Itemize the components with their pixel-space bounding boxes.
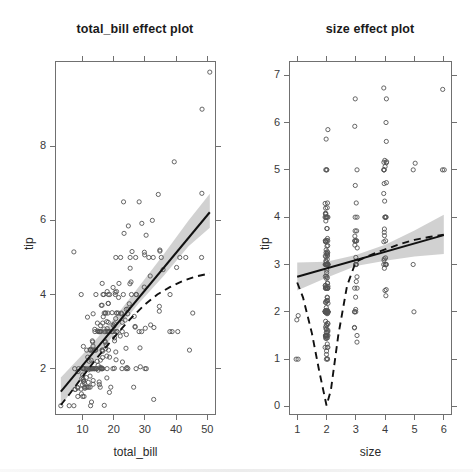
x-tick-top	[297, 56, 298, 61]
y-tick-right	[452, 406, 457, 407]
x-tick-bottom	[82, 415, 83, 420]
y-tick-right	[452, 169, 457, 170]
y-tick-right	[452, 217, 457, 218]
x-tick-bottom	[113, 415, 114, 420]
y-tick-label: 2	[30, 362, 46, 374]
y-tick-label: 3	[264, 258, 280, 270]
x-tick-top	[443, 56, 444, 61]
y-tick-left	[50, 220, 55, 221]
x-tick-bottom	[297, 415, 298, 420]
x-tick-bottom	[443, 415, 444, 420]
y-axis-title-size: tip	[258, 237, 272, 250]
y-tick-label: 7	[264, 68, 280, 80]
effect-plot-figure: total_bill effect plot total_bill tip si…	[0, 0, 473, 472]
x-tick-top	[326, 56, 327, 61]
y-tick-left	[284, 169, 289, 170]
x-tick-top	[82, 56, 83, 61]
y-tick-label: 4	[30, 288, 46, 300]
x-tick-top	[207, 56, 208, 61]
x-tick-bottom	[176, 415, 177, 420]
y-tick-label: 8	[30, 139, 46, 151]
y-tick-right	[452, 75, 457, 76]
x-tick-label: 40	[162, 423, 190, 435]
x-tick-label: 4	[371, 423, 399, 435]
y-tick-left	[284, 264, 289, 265]
y-tick-label: 0	[264, 399, 280, 411]
y-tick-left	[284, 122, 289, 123]
plot-canvas-size	[0, 0, 473, 472]
x-tick-top	[355, 56, 356, 61]
x-tick-top	[414, 56, 415, 61]
x-tick-bottom	[414, 415, 415, 420]
y-tick-left	[50, 146, 55, 147]
y-tick-label: 4	[264, 210, 280, 222]
x-axis-title-size: size	[289, 445, 452, 459]
y-tick-right	[216, 146, 221, 147]
x-tick-top	[385, 56, 386, 61]
y-tick-right	[216, 368, 221, 369]
x-tick-top	[113, 56, 114, 61]
y-tick-left	[284, 311, 289, 312]
y-tick-left	[50, 294, 55, 295]
y-tick-right	[452, 359, 457, 360]
y-tick-left	[284, 406, 289, 407]
y-tick-left	[50, 368, 55, 369]
y-tick-left	[284, 359, 289, 360]
y-tick-right	[452, 311, 457, 312]
y-tick-right	[216, 294, 221, 295]
x-tick-label: 30	[131, 423, 159, 435]
x-tick-label: 5	[400, 423, 428, 435]
y-tick-left	[284, 75, 289, 76]
y-tick-left	[284, 217, 289, 218]
x-tick-label: 20	[100, 423, 128, 435]
x-tick-label: 10	[68, 423, 96, 435]
y-tick-right	[452, 264, 457, 265]
y-tick-label: 2	[264, 305, 280, 317]
x-tick-top	[144, 56, 145, 61]
x-tick-label: 2	[313, 423, 341, 435]
y-tick-label: 1	[264, 352, 280, 364]
y-tick-label: 6	[30, 213, 46, 225]
y-tick-label: 6	[264, 116, 280, 128]
y-tick-right	[452, 122, 457, 123]
x-tick-bottom	[326, 415, 327, 420]
x-tick-label: 1	[283, 423, 311, 435]
x-tick-bottom	[355, 415, 356, 420]
x-tick-bottom	[207, 415, 208, 420]
x-tick-label: 3	[342, 423, 370, 435]
x-tick-label: 6	[430, 423, 458, 435]
x-tick-bottom	[385, 415, 386, 420]
x-tick-bottom	[144, 415, 145, 420]
x-tick-top	[176, 56, 177, 61]
y-tick-label: 5	[264, 163, 280, 175]
x-tick-label: 50	[193, 423, 221, 435]
y-tick-right	[216, 220, 221, 221]
